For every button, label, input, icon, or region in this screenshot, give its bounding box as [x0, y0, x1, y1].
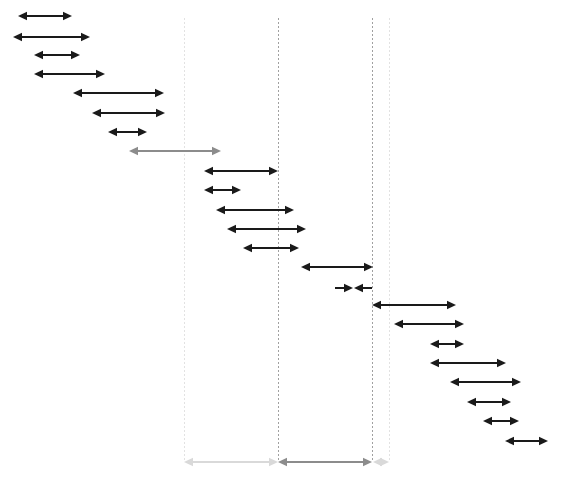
diagram-canvas — [0, 0, 568, 478]
interval-cascade-chart — [0, 0, 568, 478]
canvas-background — [0, 0, 568, 478]
